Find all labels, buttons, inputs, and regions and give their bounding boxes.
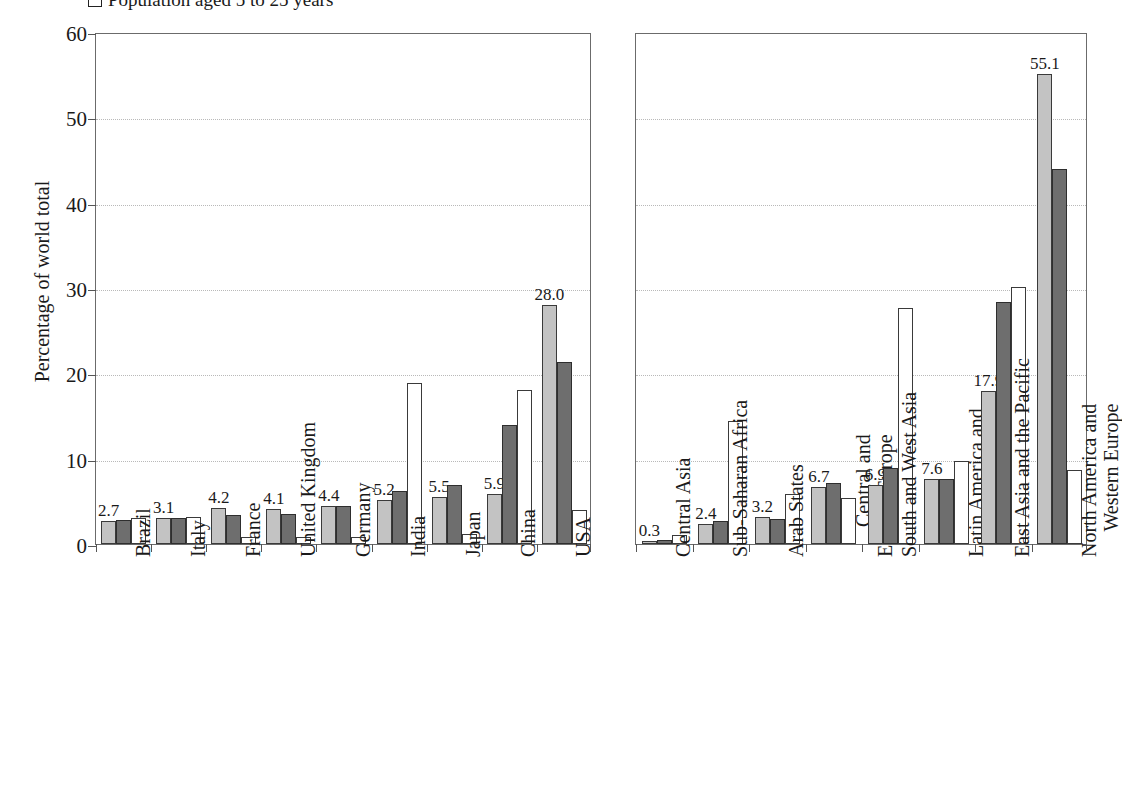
plot-area-regions: 0.3Central Asia2.4Sub-Saharan Africa3.2A… xyxy=(635,33,1087,545)
bar-group: 7.6Latin America andthe Caribbean xyxy=(919,34,976,544)
y-tick-label: 50 xyxy=(66,109,87,130)
bar-series-2 xyxy=(996,302,1011,544)
bar-group: 28.0USA xyxy=(537,34,592,544)
bar-series-1: 17.9 xyxy=(981,391,996,544)
bar-series-2 xyxy=(502,425,517,544)
bar-group: 17.9East Asia and the Pacific xyxy=(975,34,1032,544)
bar-value-label: 2.7 xyxy=(98,502,119,520)
bar-series-1: 4.2 xyxy=(211,508,226,544)
bar-value-label: 2.4 xyxy=(695,505,716,523)
bar-group: 55.1North America andWestern Europe xyxy=(1032,34,1089,544)
bar-series-2 xyxy=(116,520,131,544)
y-tick-label: 10 xyxy=(66,450,87,471)
x-tick-mark xyxy=(537,544,538,552)
bar-series-2 xyxy=(826,483,841,544)
bar-series-1: 0.3 xyxy=(642,541,657,544)
plot-inner-countries: 01020304050602.7Brazil3.1Italy4.2France4… xyxy=(96,34,590,544)
x-tick-mark xyxy=(96,544,97,552)
bar-group: 5.5Japan xyxy=(427,34,482,544)
bar-group: 6.7Central andEastern Europe xyxy=(806,34,863,544)
x-tick-mark xyxy=(206,544,207,552)
bar-series-1: 4.4 xyxy=(321,506,336,544)
bar-group: 3.1Italy xyxy=(151,34,206,544)
y-tick-mark xyxy=(88,290,96,291)
bar-series-1: 7.6 xyxy=(924,479,939,544)
bar-group: 4.2France xyxy=(206,34,261,544)
plot-inner-regions: 0.3Central Asia2.4Sub-Saharan Africa3.2A… xyxy=(636,34,1086,544)
legend-swatch-open-square-icon xyxy=(88,0,102,7)
bar-series-1: 5.2 xyxy=(377,500,392,544)
bar-series-2 xyxy=(557,362,572,544)
bar-series-2 xyxy=(281,514,296,544)
bar-group: 0.3Central Asia xyxy=(636,34,693,544)
bar-series-2 xyxy=(713,521,728,544)
y-axis-title: Percentage of world total xyxy=(31,72,54,492)
bar-series-1: 3.2 xyxy=(755,517,770,544)
bar-value-label: 3.2 xyxy=(752,498,773,516)
bar-value-label: 3.1 xyxy=(153,499,174,517)
y-tick-label: 60 xyxy=(66,24,87,45)
x-tick-mark xyxy=(261,544,262,552)
bar-value-label: 4.4 xyxy=(318,487,339,505)
y-tick-mark xyxy=(88,119,96,120)
bar-series-1: 3.1 xyxy=(156,518,171,544)
x-axis-label: Sub-Saharan Africa xyxy=(729,400,751,557)
chart-panel-countries: 01020304050602.7Brazil3.1Italy4.2France4… xyxy=(95,33,591,545)
bar-value-label: 4.1 xyxy=(263,490,284,508)
bar-series-2 xyxy=(336,506,351,544)
bar-group: 2.4Sub-Saharan Africa xyxy=(693,34,750,544)
bar-series-2 xyxy=(939,479,954,544)
x-tick-mark xyxy=(151,544,152,552)
bar-series-2 xyxy=(657,540,672,544)
bar-group: 4.1United Kingdom xyxy=(261,34,316,544)
x-tick-mark xyxy=(316,544,317,552)
bar-series-1: 5.9 xyxy=(487,494,502,544)
x-tick-mark xyxy=(806,544,807,552)
bar-value-label: 7.6 xyxy=(921,460,942,478)
x-tick-mark xyxy=(1086,544,1087,552)
y-tick-mark xyxy=(88,34,96,35)
bar-value-label: 4.2 xyxy=(208,489,229,507)
bar-value-label: 28.0 xyxy=(535,286,565,304)
x-tick-mark xyxy=(1032,544,1033,552)
bar-series-1: 4.1 xyxy=(266,509,281,544)
bar-group: 5.9China xyxy=(482,34,537,544)
legend-label: Population aged 5 to 25 years xyxy=(108,0,333,9)
bar-group: 3.2Arab States xyxy=(749,34,806,544)
x-axis-label: East Asia and the Pacific xyxy=(1011,358,1033,557)
bar-group: 2.7Brazil xyxy=(96,34,151,544)
y-tick-label: 30 xyxy=(66,280,87,301)
bar-series-1: 2.4 xyxy=(698,524,713,544)
x-axis-label: USA xyxy=(572,517,594,557)
x-axis-label: Arab States xyxy=(785,464,807,557)
x-axis-label: Central Asia xyxy=(672,458,694,557)
chart-panel-regions: 0.3Central Asia2.4Sub-Saharan Africa3.2A… xyxy=(635,33,1087,545)
x-tick-mark xyxy=(482,544,483,552)
bar-series-2 xyxy=(392,491,407,544)
y-tick-mark xyxy=(88,205,96,206)
bar-series-2 xyxy=(770,519,785,544)
bar-series-1: 6.7 xyxy=(811,487,826,544)
x-tick-mark xyxy=(590,544,591,552)
x-axis-label: South and West Asia xyxy=(898,392,920,557)
x-tick-mark xyxy=(919,544,920,552)
y-tick-label: 40 xyxy=(66,194,87,215)
bar-series-1: 2.7 xyxy=(101,521,116,544)
bar-series-2 xyxy=(883,468,898,544)
x-tick-mark xyxy=(427,544,428,552)
legend: Population aged 5 to 25 years xyxy=(88,0,333,9)
bar-group: 5.2India xyxy=(372,34,427,544)
bar-series-1: 55.1 xyxy=(1037,74,1052,544)
x-tick-mark xyxy=(372,544,373,552)
x-tick-mark xyxy=(636,544,637,552)
plot-area-countries: 01020304050602.7Brazil3.1Italy4.2France4… xyxy=(95,33,591,545)
bar-value-label: 55.1 xyxy=(1030,55,1060,73)
x-tick-mark xyxy=(975,544,976,552)
bar-value-label: 0.3 xyxy=(639,522,660,540)
x-tick-mark xyxy=(749,544,750,552)
y-tick-label: 0 xyxy=(77,536,88,557)
bar-group: 6.9South and West Asia xyxy=(862,34,919,544)
bar-series-1: 28.0 xyxy=(542,305,557,544)
y-tick-mark xyxy=(88,375,96,376)
bar-series-1: 5.5 xyxy=(432,497,447,544)
